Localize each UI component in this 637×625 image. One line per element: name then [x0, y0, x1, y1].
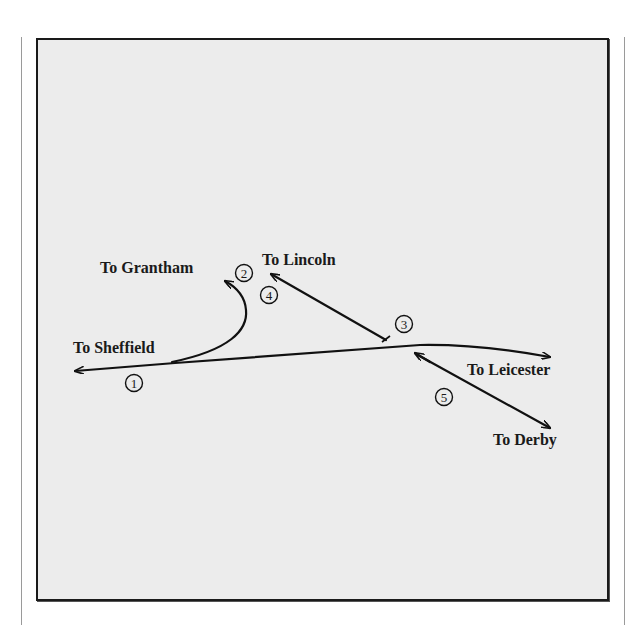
label-lincoln: To Lincoln	[262, 251, 336, 268]
label-derby: To Derby	[493, 431, 557, 449]
svg-text:4: 4	[266, 288, 273, 303]
marker-3: 3	[396, 316, 413, 333]
junction-diagram: To Grantham To Lincoln To Sheffield To L…	[0, 0, 637, 625]
marker-2: 2	[236, 265, 253, 282]
marker-4: 4	[261, 287, 278, 304]
svg-text:3: 3	[401, 317, 408, 332]
svg-text:5: 5	[441, 390, 448, 405]
marker-5: 5	[436, 389, 453, 406]
label-leicester: To Leicester	[467, 361, 550, 378]
marker-1: 1	[126, 375, 143, 392]
label-sheffield: To Sheffield	[73, 339, 155, 356]
svg-text:2: 2	[241, 266, 248, 281]
grantham-branch	[172, 281, 246, 362]
label-grantham: To Grantham	[100, 259, 194, 276]
lincoln-branch	[271, 274, 386, 340]
main-line-to-leicester	[420, 345, 550, 357]
svg-text:1: 1	[131, 376, 138, 391]
derby-branch-to-junction	[415, 353, 430, 362]
